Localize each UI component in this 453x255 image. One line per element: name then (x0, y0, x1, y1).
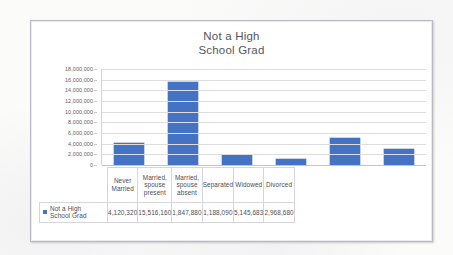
bar-slot-1 (156, 69, 210, 165)
table-corner-blank (40, 168, 108, 203)
y-axis-tick-label-1: 16,000,000 (65, 77, 93, 83)
bar-2 (222, 155, 251, 165)
chart-title: Not a High School Grad (31, 29, 432, 57)
category-line: absent (177, 189, 197, 196)
y-axis-tick-label-2: 14,000,000 (65, 87, 93, 93)
category-line: spouse (144, 181, 165, 188)
y-axis-tick-label-6: 6,000,000 (68, 130, 93, 136)
gridline-7 (102, 144, 426, 145)
category-header-3: Separated (202, 168, 233, 203)
bar-slot-0 (102, 69, 156, 165)
bar-slot-3 (264, 69, 318, 165)
plot-area (101, 69, 426, 165)
chart-title-line-2: School Grad (31, 43, 432, 57)
legend-label: Not a High School Grad (50, 205, 87, 220)
value-cell-3: 1,188,090 (202, 203, 233, 223)
value-cell-4: 5,145,683 (234, 203, 264, 223)
category-line: Married, (143, 174, 167, 181)
legend-swatch-icon (43, 210, 47, 214)
value-cell-0: 4,120,320 (108, 203, 138, 223)
y-axis-tick-label-8: 2,000,000 (68, 151, 93, 157)
table-row-values: Not a High School Grad 4,120,320 15,516,… (40, 203, 295, 223)
legend-entry: Not a High School Grad (40, 203, 108, 223)
value-cell-5: 2,968,680 (264, 203, 294, 223)
category-line: Widowed (235, 181, 262, 188)
legend-label-line-2: School Grad (50, 212, 87, 219)
y-axis-tick-label-4: 10,000,000 (65, 109, 93, 115)
category-header-1: Married,spousepresent (138, 168, 172, 203)
axis-zero-line (102, 165, 426, 166)
y-axis-tick-label-0: 18,000,000 (65, 66, 93, 72)
table-row-categories: NeverMarried Married,spousepresent Marri… (40, 168, 295, 203)
category-header-5: Divorced (264, 168, 294, 203)
category-line: spouse (176, 181, 197, 188)
gridline-6 (102, 133, 426, 134)
gridline-0 (102, 69, 426, 70)
chart-frame: Not a High School Grad 18,000,00016,000,… (30, 20, 433, 242)
chart-title-line-1: Not a High (31, 29, 432, 43)
plot-wrapper: 18,000,00016,000,00014,000,00012,000,000… (39, 69, 426, 181)
gridline-4 (102, 112, 426, 113)
y-axis: 18,000,00016,000,00014,000,00012,000,000… (39, 69, 97, 165)
bar-1 (168, 82, 197, 165)
gridline-2 (102, 90, 426, 91)
bar-5 (384, 149, 413, 165)
value-cell-1: 15,516,160 (138, 203, 172, 223)
y-axis-tick-label-5: 8,000,000 (68, 119, 93, 125)
value-cell-2: 1,847,880 (172, 203, 202, 223)
category-line: Divorced (266, 181, 292, 188)
gridline-3 (102, 101, 426, 102)
gridline-8 (102, 154, 426, 155)
category-header-4: Widowed (234, 168, 264, 203)
bar-slot-5 (372, 69, 426, 165)
category-line: Married (111, 185, 133, 192)
category-line: Married, (175, 174, 199, 181)
bar-4 (330, 138, 359, 165)
chart-data-table: NeverMarried Married,spousepresent Marri… (39, 167, 295, 223)
gridline-1 (102, 80, 426, 81)
y-axis-tick-label-3: 12,000,000 (65, 98, 93, 104)
gridline-5 (102, 122, 426, 123)
category-line: Separated (203, 181, 233, 188)
category-header-2: Married,spouseabsent (172, 168, 202, 203)
legend-label-line-1: Not a High (50, 205, 81, 212)
category-line: present (144, 189, 166, 196)
category-header-0: NeverMarried (108, 168, 138, 203)
bar-slot-4 (318, 69, 372, 165)
bar-slot-2 (210, 69, 264, 165)
bar-series (102, 69, 426, 165)
y-axis-tick-label-7: 4,000,000 (68, 141, 93, 147)
category-line: Never (114, 177, 132, 184)
